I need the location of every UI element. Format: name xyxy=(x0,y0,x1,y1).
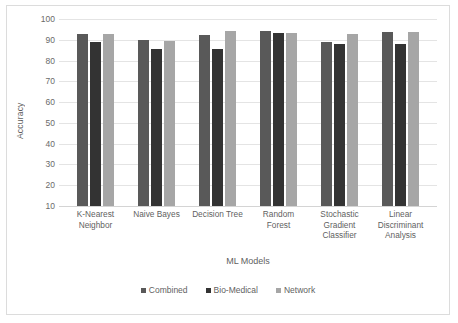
bar[interactable] xyxy=(225,31,236,206)
chart-plot-wrapper: Accuracy 100908070605040302010 K-Nearest… xyxy=(7,6,449,314)
gridline-10 xyxy=(59,206,437,207)
legend-label: Bio-Medical xyxy=(214,285,258,295)
bar[interactable] xyxy=(90,42,101,206)
bar[interactable] xyxy=(334,44,345,206)
bar[interactable] xyxy=(260,31,271,206)
chart-frame: Accuracy 100908070605040302010 K-Nearest… xyxy=(6,5,450,315)
bar[interactable] xyxy=(138,40,149,206)
legend-swatch-icon xyxy=(276,288,281,293)
bar[interactable] xyxy=(77,34,88,206)
chart-legend: CombinedBio-MedicalNetwork xyxy=(7,285,449,295)
legend-item[interactable]: Combined xyxy=(141,285,188,295)
bar[interactable] xyxy=(273,33,284,206)
bar[interactable] xyxy=(321,42,332,206)
bar[interactable] xyxy=(286,33,297,206)
y-axis-tick-100: 100 xyxy=(29,15,55,24)
x-axis-label-5: StochasticGradientClassifier xyxy=(309,209,370,241)
y-axis-tick-80: 80 xyxy=(29,56,55,65)
x-axis-label-2: Naive Bayes xyxy=(126,209,187,241)
bar[interactable] xyxy=(395,44,406,206)
y-axis-tick-40: 40 xyxy=(29,139,55,148)
bar-group xyxy=(65,19,126,206)
y-axis-title: Accuracy xyxy=(13,76,27,166)
x-axis-label-6: LinearDiscriminantAnalysis xyxy=(370,209,431,241)
x-axis-title: ML Models xyxy=(59,256,437,266)
legend-swatch-icon xyxy=(206,288,211,293)
bar-groups xyxy=(59,19,437,206)
bar[interactable] xyxy=(103,34,114,206)
plot-area xyxy=(59,19,437,206)
bar-group xyxy=(309,19,370,206)
y-axis-tick-70: 70 xyxy=(29,77,55,86)
y-axis-tick-50: 50 xyxy=(29,119,55,128)
y-axis-tick-30: 30 xyxy=(29,160,55,169)
y-axis-tick-60: 60 xyxy=(29,98,55,107)
bar-group xyxy=(187,19,248,206)
bar[interactable] xyxy=(199,35,210,206)
legend-swatch-icon xyxy=(141,288,146,293)
x-axis-label-3: Decision Tree xyxy=(187,209,248,241)
bar-group xyxy=(370,19,431,206)
bar[interactable] xyxy=(347,34,358,206)
x-axis-label-1: K-NearestNeighbor xyxy=(65,209,126,241)
bar[interactable] xyxy=(408,32,419,206)
y-axis-tick-10: 10 xyxy=(29,202,55,211)
bar[interactable] xyxy=(151,49,162,206)
y-axis-tick-labels: 100908070605040302010 xyxy=(29,19,55,206)
legend-item[interactable]: Bio-Medical xyxy=(206,285,258,295)
legend-item[interactable]: Network xyxy=(276,285,315,295)
bar[interactable] xyxy=(382,32,393,206)
x-axis-label-4: RandomForest xyxy=(248,209,309,241)
y-axis-tick-90: 90 xyxy=(29,36,55,45)
bar-group xyxy=(126,19,187,206)
y-axis-tick-20: 20 xyxy=(29,181,55,190)
legend-label: Network xyxy=(284,285,315,295)
x-axis-category-labels: K-NearestNeighborNaive BayesDecision Tre… xyxy=(59,209,437,241)
legend-label: Combined xyxy=(149,285,188,295)
bar[interactable] xyxy=(212,49,223,206)
bar-group xyxy=(248,19,309,206)
bar[interactable] xyxy=(164,41,175,206)
